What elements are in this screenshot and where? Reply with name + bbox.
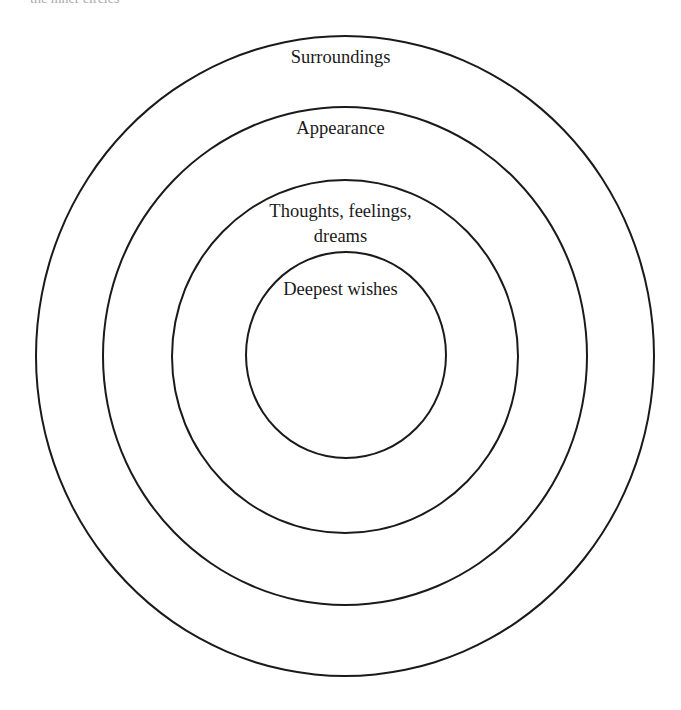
- clipped-header-text: the inner circles: [30, 0, 119, 7]
- label-appearance: Appearance: [0, 116, 681, 140]
- label-deepest-wishes: Deepest wishes: [0, 277, 681, 301]
- label-thoughts-line2: dreams: [0, 224, 681, 248]
- label-thoughts-line1: Thoughts, feelings,: [0, 199, 681, 223]
- label-surroundings: Surroundings: [0, 45, 681, 69]
